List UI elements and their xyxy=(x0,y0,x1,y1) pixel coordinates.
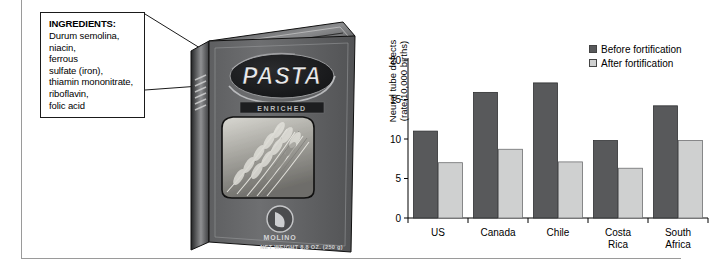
pasta-box-image: PASTA ENRICHED xyxy=(183,14,358,264)
y-axis-tick-label: 0 xyxy=(395,213,401,224)
bar-after-fortification xyxy=(499,149,523,218)
ingredient-line: niacin, xyxy=(49,42,138,54)
chart-y-axis-label: Neural tube defects (rate/10,000 births) xyxy=(387,11,409,151)
legend-label-before: Before fortification xyxy=(601,44,682,55)
bar-before-fortification xyxy=(534,83,558,218)
pasta-maker-text: MOLINO xyxy=(264,234,297,241)
x-axis-category-label: Costa xyxy=(605,227,632,238)
pasta-net-weight-text: NET WEIGHT 8.8 OZ. (250 g) xyxy=(260,244,343,250)
y-axis-tick-label: 5 xyxy=(395,173,401,184)
legend-swatch-after xyxy=(589,59,597,67)
bar-after-fortification xyxy=(559,162,583,218)
legend-swatch-before xyxy=(589,45,597,53)
frame-left-border xyxy=(21,0,22,259)
x-axis-category-label: Canada xyxy=(480,227,515,238)
bar-chart: Neural tube defects (rate/10,000 births)… xyxy=(376,18,721,268)
legend-item-after: After fortification xyxy=(589,56,682,70)
ingredient-line: sulfate (iron), xyxy=(49,65,138,77)
ingredient-line: folic acid xyxy=(49,100,138,112)
bar-after-fortification xyxy=(439,163,463,218)
pasta-enriched-banner: ENRICHED xyxy=(257,105,306,112)
ingredients-callout: INGREDIENTS: Durum semolina, niacin, fer… xyxy=(40,12,145,118)
ingredient-line: thiamin mononitrate, xyxy=(49,76,138,88)
x-axis-category-label: US xyxy=(431,227,445,238)
ingredient-line: riboflavin, xyxy=(49,88,138,100)
bar-before-fortification xyxy=(594,141,618,218)
x-axis-category-label: Chile xyxy=(547,227,570,238)
y-axis-label-line-2: (rate/10,000 births) xyxy=(398,11,409,151)
pasta-brand-text: PASTA xyxy=(242,63,322,89)
x-axis-category-label: South xyxy=(665,227,691,238)
bar-after-fortification xyxy=(619,168,643,218)
legend-item-before: Before fortification xyxy=(589,42,682,56)
bar-before-fortification xyxy=(414,131,438,218)
x-axis-category-label: Africa xyxy=(665,239,691,250)
bar-before-fortification xyxy=(474,92,498,218)
ingredient-line: Durum semolina, xyxy=(49,30,138,42)
ingredients-title: INGREDIENTS: xyxy=(49,18,138,30)
bar-before-fortification xyxy=(654,106,678,218)
ingredient-line: ferrous xyxy=(49,53,138,65)
figure-panel: INGREDIENTS: Durum semolina, niacin, fer… xyxy=(0,0,725,277)
x-axis-category-label: Rica xyxy=(608,239,628,250)
bar-after-fortification xyxy=(679,141,703,218)
legend-label-after: After fortification xyxy=(601,58,673,69)
y-axis-label-line-1: Neural tube defects xyxy=(387,11,398,151)
chart-legend: Before fortification After fortification xyxy=(589,42,682,70)
